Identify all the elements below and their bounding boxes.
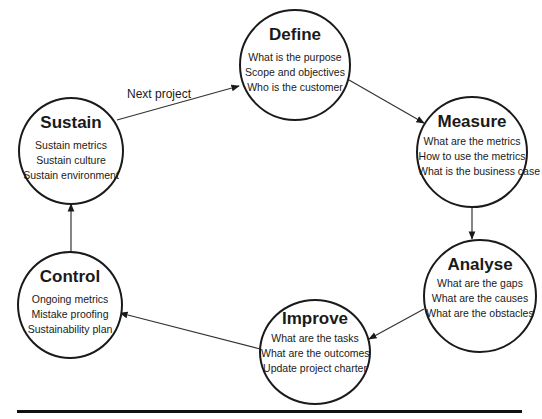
node-item: Sustainability plan: [19, 322, 121, 337]
node-items: What is the purpose Scope and objectives…: [241, 50, 349, 95]
node-item: What is the purpose: [241, 50, 349, 65]
node-title: Analyse: [425, 255, 535, 275]
node-items: What are the gaps What are the causes Wh…: [425, 276, 535, 321]
node-item: Scope and objectives: [241, 65, 349, 80]
node-item: Update project charter: [261, 361, 369, 376]
node-title: Sustain: [20, 113, 122, 133]
node-item: Mistake proofing: [19, 307, 121, 322]
arrow-analyse-to-improve: [369, 309, 424, 339]
node-item: Sustain environment: [20, 168, 122, 183]
node-items: What are the tasks What are the outcomes…: [261, 331, 369, 376]
node-measure: Measure What are the metrics How to use …: [416, 96, 528, 208]
node-title: Define: [241, 25, 349, 45]
node-control: Control Ongoing metrics Mistake proofing…: [17, 251, 123, 359]
node-item: Who is the customer: [241, 80, 349, 95]
arrow-improve-to-control: [120, 313, 260, 349]
node-item: Ongoing metrics: [19, 292, 121, 307]
node-item: What are the obstacles: [425, 306, 535, 321]
bottom-divider: [17, 410, 522, 413]
node-title: Measure: [418, 112, 526, 132]
node-define: Define What is the purpose Scope and obj…: [239, 9, 351, 121]
node-items: What are the metrics How to use the metr…: [418, 134, 526, 179]
node-title: Control: [19, 267, 121, 287]
node-item: What is the business case: [418, 164, 526, 179]
node-item: What are the outcomes: [261, 346, 369, 361]
node-sustain: Sustain Sustain metrics Sustain culture …: [18, 97, 124, 205]
node-items: Sustain metrics Sustain culture Sustain …: [20, 138, 122, 183]
arrow-define-to-measure: [349, 80, 424, 123]
node-item: Sustain metrics: [20, 138, 122, 153]
node-title: Improve: [261, 309, 369, 329]
node-analyse: Analyse What are the gaps What are the c…: [423, 239, 537, 353]
edge-label-next-project: Next project: [127, 87, 191, 101]
node-item: How to use the metrics: [418, 149, 526, 164]
node-items: Ongoing metrics Mistake proofing Sustain…: [19, 292, 121, 337]
node-improve: Improve What are the tasks What are the …: [259, 299, 371, 405]
node-item: Sustain culture: [20, 153, 122, 168]
node-item: What are the gaps: [425, 276, 535, 291]
node-item: What are the tasks: [261, 331, 369, 346]
node-item: What are the metrics: [418, 134, 526, 149]
node-item: What are the causes: [425, 291, 535, 306]
